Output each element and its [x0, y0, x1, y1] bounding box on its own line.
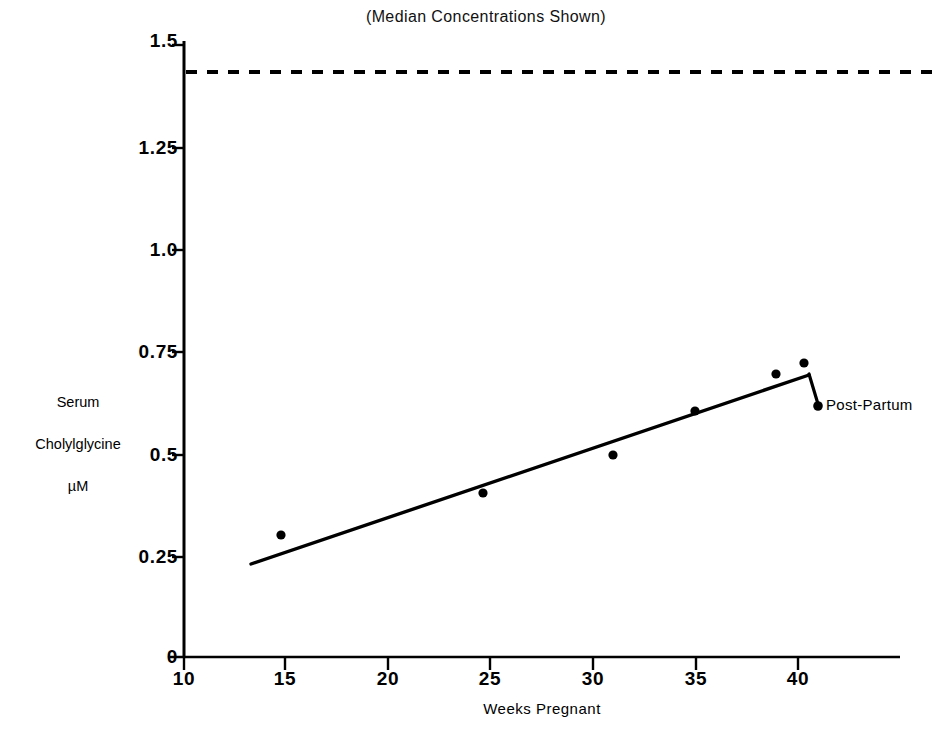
data-point-25w — [478, 488, 487, 497]
data-point-40.8w — [799, 358, 808, 367]
trend-line — [251, 375, 809, 564]
chart-figure: (Median Concentrations Shown) Serum Chol… — [0, 0, 952, 729]
data-point-15w — [276, 530, 285, 539]
post-partum-drop-line — [809, 374, 818, 404]
data-point-39.4w — [771, 369, 780, 378]
data-point-31.5w — [608, 450, 617, 459]
data-point-post-partum — [813, 401, 823, 411]
chart-plot-area — [0, 0, 952, 729]
data-point-35.4w — [690, 406, 699, 415]
